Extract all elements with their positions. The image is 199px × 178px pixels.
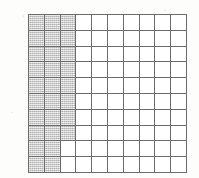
grid-cell-shaded	[45, 78, 60, 93]
grid-cell-empty	[61, 141, 76, 156]
grid-cell-empty	[108, 157, 123, 172]
grid-cell-empty	[92, 94, 107, 109]
grid-cell-shaded	[29, 78, 44, 93]
grid-cell-shaded	[29, 62, 44, 77]
grid-cell-empty	[108, 15, 123, 30]
grid-cell-shaded	[61, 126, 76, 141]
grid-cell-shaded	[61, 94, 76, 109]
grid-cell-empty	[171, 47, 186, 62]
grid-cell-empty	[155, 110, 170, 125]
grid-cell-empty	[155, 47, 170, 62]
grid-cell-empty	[171, 78, 186, 93]
grid-cell-shaded	[29, 31, 44, 46]
grid-cell-empty	[92, 15, 107, 30]
grid-cell-empty	[155, 15, 170, 30]
grid-cell-shaded	[45, 31, 60, 46]
grid-cell-shaded	[45, 126, 60, 141]
grid-cell-shaded	[45, 94, 60, 109]
grid-cell-empty	[140, 31, 155, 46]
grid-cell-shaded	[61, 62, 76, 77]
scanned-page-background	[0, 0, 199, 178]
grid-cell-empty	[76, 157, 91, 172]
grid-cell-empty	[140, 47, 155, 62]
grid-cell-empty	[155, 141, 170, 156]
grid-cell-empty	[155, 31, 170, 46]
grid-cell-empty	[140, 157, 155, 172]
grid-cell-shaded	[45, 141, 60, 156]
grid-cell-shaded	[29, 15, 44, 30]
grid-cell-empty	[155, 78, 170, 93]
grid-cell-empty	[92, 110, 107, 125]
grid-cell-empty	[108, 62, 123, 77]
grid-cell-empty	[76, 141, 91, 156]
grid-cell-empty	[124, 110, 139, 125]
grid-cell-empty	[108, 110, 123, 125]
grid-cell-empty	[108, 126, 123, 141]
grid-cell-empty	[171, 126, 186, 141]
grid-cell-empty	[76, 110, 91, 125]
grid-cell-empty	[171, 62, 186, 77]
grid-cell-empty	[76, 15, 91, 30]
grid-cell-shaded	[45, 62, 60, 77]
grid-cell-empty	[140, 110, 155, 125]
grid-cell-empty	[92, 47, 107, 62]
grid-cell-empty	[124, 47, 139, 62]
grid-cell-empty	[155, 94, 170, 109]
grid-cell-shaded	[45, 47, 60, 62]
grid-cell-empty	[124, 62, 139, 77]
grid-cell-shaded	[61, 47, 76, 62]
grid-cell-empty	[140, 141, 155, 156]
grid-cell-empty	[76, 126, 91, 141]
grid-cell-shaded	[29, 157, 44, 172]
grid-cell-empty	[108, 141, 123, 156]
grid-cell-empty	[76, 31, 91, 46]
grid-cell-empty	[171, 141, 186, 156]
grid-cell-empty	[92, 31, 107, 46]
grid-cell-empty	[140, 62, 155, 77]
grid-cell-empty	[124, 157, 139, 172]
grid-cell-empty	[76, 47, 91, 62]
grid-cell-shaded	[29, 141, 44, 156]
grid-cell-empty	[140, 78, 155, 93]
grid-cell-empty	[155, 62, 170, 77]
grid-cell-shaded	[29, 94, 44, 109]
grid-cell-empty	[124, 94, 139, 109]
grid-cell-empty	[124, 15, 139, 30]
grid-cell-empty	[76, 78, 91, 93]
grid-cell-empty	[171, 15, 186, 30]
grid-cell-shaded	[45, 157, 60, 172]
grid-cell-empty	[108, 47, 123, 62]
grid-cell-shaded	[45, 15, 60, 30]
grid-cell-shaded	[45, 110, 60, 125]
grid-cell-empty	[108, 31, 123, 46]
grid-cell-shaded	[29, 110, 44, 125]
grid-cell-shaded	[61, 110, 76, 125]
grid-cell-empty	[155, 157, 170, 172]
grid-cell-shaded	[61, 15, 76, 30]
grid-cell-empty	[171, 31, 186, 46]
grid-cell-empty	[124, 78, 139, 93]
grid-cell-empty	[124, 126, 139, 141]
grid-cell-empty	[61, 157, 76, 172]
grid-cell-empty	[92, 78, 107, 93]
grid-cell-empty	[140, 94, 155, 109]
grid-cell-empty	[76, 62, 91, 77]
grid-cell-empty	[124, 141, 139, 156]
grid-cell-shaded	[29, 126, 44, 141]
grid-cell-empty	[108, 78, 123, 93]
grid-cell-empty	[171, 157, 186, 172]
grid-cell-empty	[124, 31, 139, 46]
grid-cell-empty	[92, 126, 107, 141]
grid-cell-empty	[76, 94, 91, 109]
grid-cell-empty	[140, 126, 155, 141]
grid-cell-empty	[140, 15, 155, 30]
grid-cell-empty	[155, 126, 170, 141]
grid-cell-empty	[92, 62, 107, 77]
grid-cell-shaded	[61, 31, 76, 46]
grid-cell-empty	[92, 157, 107, 172]
grid-cell-empty	[171, 94, 186, 109]
shaded-grid-figure	[28, 14, 187, 173]
grid-cell-empty	[108, 94, 123, 109]
grid-cell-empty	[171, 110, 186, 125]
grid-cell-empty	[92, 141, 107, 156]
